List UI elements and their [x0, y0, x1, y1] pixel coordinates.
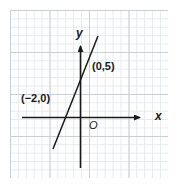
plotted-line [53, 36, 98, 149]
point-label-x-intercept: (−2,0) [21, 93, 50, 104]
y-axis-label: y [76, 27, 83, 39]
coordinate-graph-figure: (0,5) (−2,0) x y O [0, 0, 177, 188]
origin-label: O [89, 120, 98, 131]
x-axis-label: x [155, 110, 162, 122]
point-label-y-intercept: (0,5) [92, 61, 115, 72]
